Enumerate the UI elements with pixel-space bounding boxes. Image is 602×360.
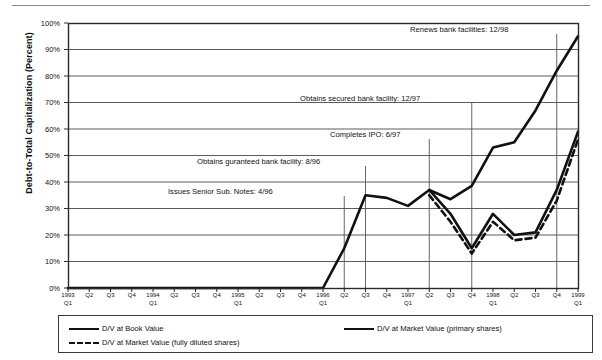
debt-to-capitalization-chart: Debt-to-Total Capitalization (Percent) 0… bbox=[0, 0, 602, 360]
annotation-label: Issues Senior Sub. Notes: 4/96 bbox=[168, 187, 273, 196]
annotation-label: Renews bank facilities: 12/98 bbox=[410, 25, 508, 34]
chart-canvas bbox=[0, 0, 602, 360]
gridlines bbox=[64, 23, 578, 288]
series-line-2 bbox=[429, 140, 578, 254]
annotation-label: Obtains guranteed bank facility: 8/96 bbox=[197, 157, 320, 166]
plot-area-border bbox=[69, 24, 579, 289]
legend-label: D/V at Market Value (fully diluted share… bbox=[102, 338, 239, 347]
series-line-0 bbox=[68, 36, 578, 288]
legend-swatch-dashed-icon bbox=[69, 342, 99, 344]
annotation-label: Completes IPO: 6/97 bbox=[330, 130, 401, 139]
annotation-leader-lines bbox=[344, 34, 557, 288]
legend-swatch-solid-icon bbox=[344, 328, 374, 331]
legend-label: D/V at Book Value bbox=[102, 324, 164, 333]
chart-legend: D/V at Book Value D/V at Market Value (p… bbox=[58, 315, 593, 353]
legend-entry-book-value[interactable]: D/V at Book Value bbox=[69, 324, 164, 333]
legend-entry-market-diluted[interactable]: D/V at Market Value (fully diluted share… bbox=[69, 338, 239, 347]
data-series bbox=[68, 36, 578, 288]
legend-swatch-solid-icon bbox=[69, 328, 99, 331]
legend-entry-market-primary[interactable]: D/V at Market Value (primary shares) bbox=[344, 324, 502, 333]
annotation-label: Obtains secured bank facility: 12/97 bbox=[300, 94, 420, 103]
legend-label: D/V at Market Value (primary shares) bbox=[377, 324, 502, 333]
